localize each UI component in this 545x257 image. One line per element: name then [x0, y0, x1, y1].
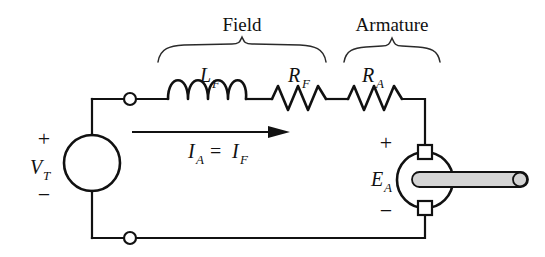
- current-subscript-a: A: [195, 152, 204, 167]
- motor-label: E: [370, 168, 383, 190]
- current-arrow-head: [268, 126, 290, 138]
- armature-section-group: Armature: [344, 14, 440, 62]
- field-resistor: [272, 86, 326, 110]
- armature-resistor-label: R: [361, 64, 374, 86]
- armature-label: Armature: [356, 14, 429, 35]
- field-resistor-zigzag: [272, 86, 326, 110]
- current-label-if: I: [231, 140, 240, 162]
- current-subscript-f: F: [239, 152, 249, 167]
- circuit-diagram: Field Armature L F R F R A: [0, 0, 545, 257]
- motor-shaft-end-cap: [513, 173, 527, 187]
- current-indicator: I A = I F: [132, 126, 290, 167]
- field-resistor-subscript: F: [301, 76, 311, 91]
- motor-shaft-bar: [412, 172, 528, 187]
- armature-resistor-zigzag: [348, 86, 402, 110]
- bottom-terminal-node: [124, 232, 136, 244]
- field-resistor-label: R: [287, 64, 300, 86]
- voltage-source-circle: [64, 135, 120, 191]
- current-label-ia: I: [187, 140, 196, 162]
- inductor-label: L: [199, 64, 211, 86]
- armature-resistor: [348, 86, 402, 110]
- field-brace: [158, 37, 326, 62]
- motor-armature: + E A −: [370, 130, 528, 223]
- motor-subscript: A: [383, 180, 392, 195]
- motor-brush-bottom: [418, 201, 432, 215]
- motor-minus-sign: −: [380, 198, 392, 223]
- field-label: Field: [222, 14, 262, 35]
- wire-ra-to-corner: [402, 99, 425, 150]
- source-plus-sign: +: [38, 126, 50, 151]
- source-minus-sign: −: [38, 182, 50, 207]
- current-equals-sign: =: [210, 140, 221, 162]
- voltage-source: + V T −: [30, 126, 120, 207]
- armature-brace: [344, 38, 440, 62]
- motor-shaft: [412, 172, 528, 187]
- top-terminal-node: [124, 93, 136, 105]
- field-section-group: Field: [158, 14, 326, 62]
- motor-brush-top: [418, 145, 432, 159]
- motor-plus-sign: +: [380, 130, 392, 155]
- source-subscript: T: [43, 168, 51, 183]
- circuit-canvas: Field Armature L F R F R A: [0, 0, 545, 257]
